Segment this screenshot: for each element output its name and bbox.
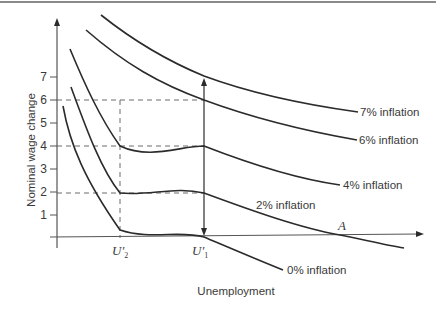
curve-0-inflation	[63, 106, 283, 270]
x-axis-title: Unemployment	[197, 285, 275, 297]
marker-u1: U′1	[192, 243, 208, 260]
curve-7-inflation	[101, 15, 358, 112]
y-tick-6: 6	[40, 93, 47, 107]
label-7-inflation: 7% inflation	[360, 106, 419, 118]
y-tick-4: 4	[40, 139, 47, 153]
curve-6-inflation	[86, 30, 357, 140]
y-ticks	[50, 77, 57, 215]
reference-lines	[57, 100, 204, 238]
curve-labels: 7% inflation 6% inflation 4% inflation 2…	[256, 106, 419, 276]
label-4-inflation: 4% inflation	[343, 179, 402, 191]
y-tick-5: 5	[40, 116, 47, 130]
curve-4-inflation	[70, 49, 340, 185]
label-2-inflation: 2% inflation	[256, 199, 315, 211]
y-tick-3: 3	[40, 162, 47, 176]
y-tick-labels: 1 2 3 4 5 6 7	[40, 70, 47, 222]
label-6-inflation: 6% inflation	[359, 134, 418, 146]
y-axis-title: Nominal wage change	[25, 93, 37, 207]
label-0-inflation: 0% inflation	[287, 264, 346, 276]
y-tick-2: 2	[40, 185, 47, 199]
phillips-curve-chart: 1 2 3 4 5 6 7 7% inflation 6% inflation …	[0, 0, 444, 311]
marker-a: A	[337, 218, 346, 233]
y-tick-1: 1	[40, 208, 47, 222]
curves	[63, 15, 404, 270]
marker-u2: U′2	[112, 243, 128, 260]
x-axis	[50, 234, 420, 237]
y-tick-7: 7	[40, 70, 47, 84]
